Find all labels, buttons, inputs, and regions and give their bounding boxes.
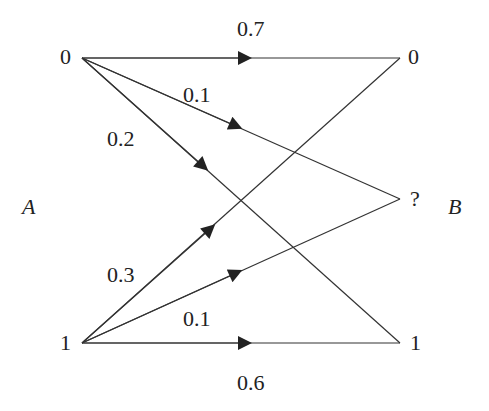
prob-label-0-to-1: 0.2 <box>107 128 135 150</box>
prob-label-1-to-1: 0.6 <box>237 372 265 394</box>
input-node-1: 1 <box>60 332 71 354</box>
output-node-0: 0 <box>408 46 419 68</box>
prob-label-0-to-erasure: 0.1 <box>183 84 211 106</box>
output-node-erasure: ? <box>410 188 420 210</box>
input-set-label: A <box>22 196 35 218</box>
prob-label-0-to-0: 0.7 <box>237 18 265 40</box>
prob-label-1-to-0: 0.3 <box>107 264 135 286</box>
prob-label-1-to-erasure: 0.1 <box>183 308 211 330</box>
input-node-0: 0 <box>60 46 71 68</box>
output-node-1: 1 <box>410 332 421 354</box>
output-set-label: B <box>448 196 461 218</box>
